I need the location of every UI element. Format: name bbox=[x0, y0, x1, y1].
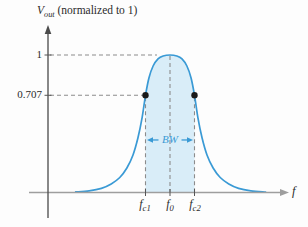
y-axis-title-suffix: (normalized to 1) bbox=[55, 4, 138, 16]
bandpass-response-figure: Vout (normalized to 1) 1 0.707 fc1 f0 fc… bbox=[0, 0, 308, 227]
half-power-point-dot bbox=[142, 92, 148, 98]
y-axis-variable-subscript: out bbox=[44, 10, 55, 19]
x-axis-arrowhead bbox=[280, 189, 289, 196]
y-tick-label-0707: 0.707 bbox=[8, 88, 42, 100]
response-curve-plot bbox=[0, 0, 308, 227]
y-axis-arrowhead bbox=[45, 25, 52, 34]
y-tick-label-1: 1 bbox=[8, 48, 42, 60]
x-tick-label-fc2: fc2 bbox=[180, 197, 210, 212]
half-power-point-dot bbox=[191, 92, 197, 98]
x-axis-end-label: f bbox=[292, 184, 295, 199]
bandwidth-label: BW bbox=[158, 133, 182, 145]
y-axis-title: Vout (normalized to 1) bbox=[37, 4, 137, 16]
y-axis-variable: V bbox=[37, 4, 44, 16]
